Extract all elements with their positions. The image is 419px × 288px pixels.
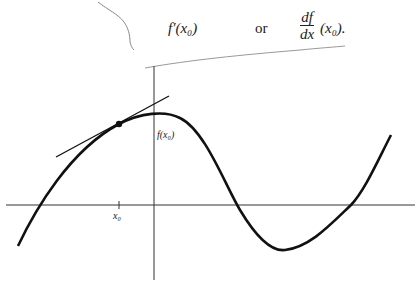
tangent-line	[56, 96, 169, 157]
tangent-point	[116, 121, 122, 127]
function-graph	[0, 0, 419, 288]
pencil-underline	[145, 46, 345, 68]
fx0-label: f(x₀)	[157, 129, 174, 140]
x0-label: x₀	[113, 210, 121, 221]
pencil-scribble	[98, 2, 134, 50]
function-curve	[18, 113, 391, 250]
